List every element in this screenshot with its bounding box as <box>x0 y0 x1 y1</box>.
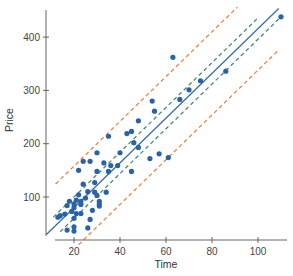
data-point <box>94 150 99 155</box>
prediction-band-upper <box>56 7 238 184</box>
data-point <box>85 225 90 230</box>
data-point <box>166 155 171 160</box>
data-point <box>157 151 162 156</box>
data-point <box>88 217 93 222</box>
confidence-band-lower <box>60 19 279 232</box>
data-point <box>65 203 70 208</box>
data-point <box>124 131 129 136</box>
data-point <box>74 211 79 216</box>
data-point <box>170 55 175 60</box>
data-point <box>65 227 70 232</box>
x-axis-label: Time <box>155 258 178 270</box>
data-point <box>97 203 102 208</box>
data-point <box>131 140 136 145</box>
data-point <box>106 169 111 174</box>
y-tick-label: 100 <box>23 192 40 203</box>
data-point <box>223 69 228 74</box>
data-point <box>85 189 90 194</box>
data-point <box>177 97 182 102</box>
data-point <box>83 195 88 200</box>
data-point <box>94 193 99 198</box>
data-point <box>62 211 67 216</box>
y-ticks: 100200300400 <box>23 32 49 203</box>
data-point <box>101 160 106 165</box>
data-point <box>55 215 60 220</box>
y-tick-label: 300 <box>23 85 40 96</box>
data-point <box>150 98 155 103</box>
data-point <box>198 78 203 83</box>
data-point <box>90 208 95 213</box>
data-point <box>108 163 113 168</box>
data-point <box>78 211 83 216</box>
x-tick-label: 100 <box>250 246 267 257</box>
data-point <box>147 156 152 161</box>
data-point <box>129 169 134 174</box>
data-points <box>55 14 283 233</box>
x-tick-label: 60 <box>160 246 172 257</box>
y-tick-label: 400 <box>23 32 40 43</box>
data-point <box>69 209 74 214</box>
confidence-band-upper <box>53 18 258 217</box>
y-tick-label: 200 <box>23 138 40 149</box>
data-point <box>278 14 283 19</box>
data-point <box>76 168 81 173</box>
data-point <box>81 159 86 164</box>
prediction-band-lower <box>79 50 279 245</box>
data-point <box>78 202 83 207</box>
x-tick-label: 80 <box>206 246 218 257</box>
data-point <box>129 129 134 134</box>
x-axis: 20406080100 Time <box>55 237 287 270</box>
data-point <box>76 192 81 197</box>
y-axis: 100200300400 Price <box>3 10 49 236</box>
data-point <box>117 150 122 155</box>
scatter-chart: 100200300400 Price 20406080100 Time <box>0 0 293 276</box>
data-point <box>88 159 93 164</box>
data-point <box>71 224 76 229</box>
data-point <box>115 163 120 168</box>
plot-lines <box>46 7 278 245</box>
data-point <box>106 134 111 139</box>
data-point <box>136 145 141 150</box>
x-tick-label: 40 <box>114 246 126 257</box>
data-point <box>104 190 109 195</box>
data-point <box>71 216 76 221</box>
data-point <box>94 169 99 174</box>
x-tick-label: 20 <box>68 246 80 257</box>
data-point <box>81 182 86 187</box>
data-point <box>92 180 97 185</box>
data-point <box>136 118 141 123</box>
data-point <box>152 109 157 114</box>
data-point <box>186 87 191 92</box>
y-axis-label: Price <box>3 108 15 132</box>
